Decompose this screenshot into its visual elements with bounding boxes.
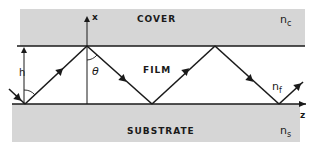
light-ray bbox=[9, 46, 303, 104]
film-index-label: nf bbox=[272, 81, 282, 95]
n-symbol: n bbox=[280, 13, 287, 26]
theta-label: θ bbox=[92, 66, 99, 77]
n-subscript: s bbox=[287, 130, 291, 139]
z-axis-arrow-icon bbox=[299, 101, 306, 107]
n-subscript: c bbox=[287, 19, 291, 28]
thickness-label: h bbox=[19, 68, 25, 78]
n-subscript: f bbox=[279, 86, 282, 95]
film-label: FILM bbox=[143, 66, 171, 75]
substrate-region bbox=[12, 104, 300, 142]
substrate-index-label: ns bbox=[280, 125, 291, 139]
ray-arrow-icon bbox=[181, 65, 192, 76]
x-axis-label: x bbox=[92, 13, 98, 22]
cover-index-label: nc bbox=[280, 14, 291, 28]
n-symbol: n bbox=[272, 80, 279, 93]
incidence-arc bbox=[24, 90, 35, 95]
substrate-label: SUBSTRATE bbox=[127, 127, 195, 136]
n-symbol: n bbox=[280, 124, 287, 137]
cover-label: COVER bbox=[137, 15, 176, 24]
z-axis-label: z bbox=[300, 111, 305, 120]
thickness-arrow-icon bbox=[21, 47, 27, 53]
theta-arc bbox=[87, 55, 97, 60]
